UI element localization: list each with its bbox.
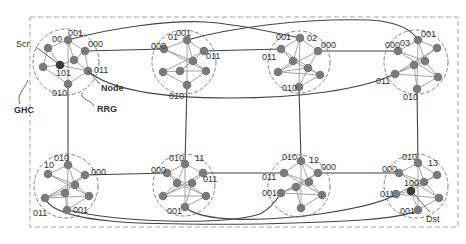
port-label: 010 — [169, 91, 184, 101]
node — [188, 179, 197, 188]
node — [304, 64, 313, 73]
cluster-id-label: 13 — [428, 158, 438, 168]
node — [433, 171, 442, 180]
node — [410, 61, 419, 70]
inter-cluster-links — [45, 20, 418, 225]
node — [159, 68, 168, 77]
port-label: 011 — [206, 51, 220, 61]
node — [39, 63, 48, 72]
inner-edge — [67, 165, 68, 210]
cluster-id-label: 10 — [44, 160, 54, 170]
port-label: 011 — [380, 189, 394, 199]
link-02-12 — [299, 87, 301, 161]
annotations — [19, 47, 430, 212]
node — [305, 178, 314, 187]
inner-edge — [45, 185, 75, 198]
port-label: 101 — [56, 68, 71, 78]
inner-edge — [396, 194, 439, 198]
port-label: 011 — [203, 174, 217, 184]
node — [297, 204, 306, 213]
cluster-12: 01000001100112 — [262, 152, 336, 217]
node — [420, 178, 429, 187]
node — [183, 81, 192, 90]
cluster-id-label: 01 — [168, 32, 178, 42]
node — [70, 56, 79, 65]
node-label: Node — [101, 83, 124, 93]
node — [159, 192, 168, 201]
node — [292, 183, 301, 192]
port-label: 001 — [262, 188, 277, 198]
node — [71, 181, 80, 190]
port-label: 001 — [421, 29, 436, 39]
port-label: 000 — [91, 167, 106, 177]
node — [189, 57, 198, 66]
node — [391, 70, 400, 79]
node — [44, 170, 53, 179]
port-label: 001 — [400, 206, 415, 216]
cluster-id-label: 02 — [307, 33, 317, 43]
clusters-layer: 0010000110101010000100001101001001000011… — [33, 28, 448, 218]
node — [316, 71, 325, 80]
cluster-id-label: 12 — [309, 155, 319, 165]
node — [63, 206, 72, 215]
port-label: 010 — [402, 152, 417, 162]
port-label: 010 — [169, 153, 184, 163]
cluster-01: 00100001101001 — [151, 28, 220, 101]
node — [202, 67, 211, 76]
dst-label: Dst — [426, 214, 440, 224]
node — [435, 194, 444, 203]
cluster-13: 01000001100110013 — [380, 152, 448, 218]
node — [61, 189, 70, 198]
port-label: 100 — [404, 178, 419, 188]
port-label: 000 — [321, 40, 336, 50]
inner-edge — [281, 193, 322, 195]
node — [297, 157, 306, 166]
port-label: 000 — [321, 162, 336, 172]
node — [44, 44, 53, 53]
node — [85, 192, 94, 201]
ghc-label: GHC — [14, 105, 35, 115]
ghc-pointer — [19, 80, 28, 104]
inner-edge — [167, 173, 206, 196]
rrg-label: RRG — [97, 104, 117, 114]
cluster-id-label: 00 — [52, 34, 62, 44]
node — [277, 189, 286, 198]
port-label: 000 — [88, 39, 103, 49]
port-label: 011 — [376, 76, 390, 86]
port-label: 000 — [385, 40, 400, 50]
hypercube-network-diagram: 0010000110101010000100001101001001000011… — [0, 0, 466, 244]
port-label: 000 — [151, 165, 166, 175]
port-label: 000 — [382, 164, 397, 174]
port-label: 001 — [167, 206, 182, 216]
cluster-id-label: 11 — [195, 153, 204, 163]
port-label: 000 — [151, 41, 166, 51]
cluster-00: 00100001101010100 — [33, 28, 108, 98]
node — [289, 57, 298, 66]
node — [421, 57, 430, 66]
node — [318, 191, 327, 200]
port-label: 010 — [282, 83, 297, 93]
inner-edge — [299, 38, 300, 87]
cluster-id-label: 03 — [400, 38, 410, 48]
port-label: 001 — [176, 28, 191, 38]
node — [176, 67, 185, 76]
port-label: 010 — [54, 153, 69, 163]
src-label: Scr. — [16, 39, 32, 49]
port-label: 001 — [276, 32, 291, 42]
node — [173, 179, 182, 188]
node — [81, 171, 90, 180]
node — [434, 73, 443, 82]
cluster-10: 01000001100110 — [33, 153, 106, 218]
rrg-pointer — [82, 93, 94, 106]
node — [280, 169, 289, 178]
node — [202, 192, 211, 201]
link-00-03-curve — [88, 71, 395, 98]
port-label: 011 — [262, 172, 276, 182]
cluster-02: 00100001101002 — [262, 31, 336, 93]
port-label: 011 — [94, 65, 108, 75]
port-label: 010 — [403, 92, 418, 102]
node — [274, 68, 283, 77]
node — [296, 34, 305, 43]
port-label: 010 — [282, 152, 297, 162]
cluster-11: 01000001100111 — [151, 153, 217, 216]
